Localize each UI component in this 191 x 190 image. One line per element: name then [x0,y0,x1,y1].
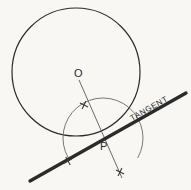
tick-mark [118,168,122,176]
tangent-circle-diagram: O P TANGENT [0,0,191,190]
tick-mark [82,101,86,109]
tangent-line [30,93,186,181]
tick-marks [64,101,124,176]
point-label: P [100,140,107,152]
radius-line [79,80,122,178]
center-label: O [74,67,83,79]
figure-canvas: O P TANGENT [0,0,191,190]
